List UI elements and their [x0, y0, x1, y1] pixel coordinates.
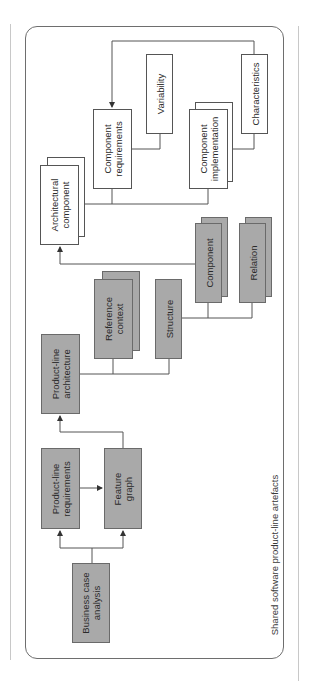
node-relation: Relation [239, 223, 266, 303]
node-component: Component [195, 223, 222, 303]
node-variability: Variability [146, 54, 173, 134]
node-component-implementation: Component implementation [189, 109, 228, 189]
node-structure: Structure [155, 279, 182, 359]
node-business-case-analysis: Business case analysis [72, 563, 110, 643]
node-characteristics: Characteristics [241, 54, 268, 134]
node-product-line-architecture: Product-line architecture [41, 334, 80, 414]
node-architectural-component: Architectural component [40, 165, 79, 245]
node-product-line-requirements: Product-line requirements [41, 448, 80, 529]
node-component-requirements: Component requirements [93, 109, 132, 189]
node-reference-context: Reference context [94, 279, 133, 359]
diagram-caption: Shared software product-line artefacts [269, 475, 280, 636]
node-feature-graph: Feature graph [104, 448, 142, 529]
